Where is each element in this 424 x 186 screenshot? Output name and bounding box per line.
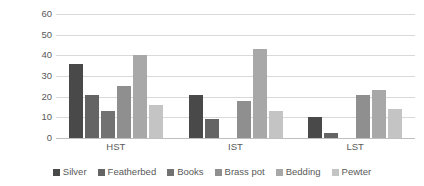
bar-chart: % of Wills Referring to Item 60504030201… [0, 0, 424, 186]
bar-featherbed-hst[interactable] [85, 95, 99, 138]
bar-slot [372, 14, 386, 138]
bar-group-ist [176, 14, 296, 138]
x-tick-label-lst: LST [295, 140, 415, 154]
bar-featherbed-ist[interactable] [205, 119, 219, 138]
legend-label-silver: Silver [63, 166, 87, 178]
bar-books-hst[interactable] [101, 111, 115, 138]
bar-pewter-hst[interactable] [149, 105, 163, 138]
bar-slot [308, 14, 322, 138]
bar-pewter-ist[interactable] [269, 111, 283, 138]
bar-group-hst [56, 14, 176, 138]
y-tick-label-60: 60 [28, 9, 52, 19]
legend-item-silver[interactable]: Silver [53, 166, 87, 178]
bar-slot [189, 14, 203, 138]
bar-slot [133, 14, 147, 138]
legend-item-brass-pot[interactable]: Brass pot [215, 166, 265, 178]
bar-slot [149, 14, 163, 138]
legend-item-books[interactable]: Books [167, 166, 203, 178]
bar-slot [69, 14, 83, 138]
y-tick-label-50: 50 [28, 30, 52, 40]
bar-pewter-lst[interactable] [388, 109, 402, 138]
bar-silver-hst[interactable] [69, 64, 83, 138]
bar-silver-lst[interactable] [308, 117, 322, 138]
legend-item-bedding[interactable]: Bedding [276, 166, 321, 178]
x-tick-label-ist: IST [176, 140, 296, 154]
x-tick-label-hst: HST [56, 140, 176, 154]
y-tick-label-20: 20 [28, 92, 52, 102]
chart-legend: SilverFeatherbedBooksBrass potBeddingPew… [0, 164, 424, 180]
bar-slot [205, 14, 219, 138]
y-axis-tick-labels: 6050403020100 [28, 14, 52, 138]
legend-swatch-pewter [332, 169, 339, 176]
bar-slot [340, 14, 354, 138]
gridline-0 [56, 138, 415, 139]
bar-brass-pot-hst[interactable] [117, 86, 131, 138]
legend-label-books: Books [177, 166, 203, 178]
legend-swatch-brass-pot [215, 169, 222, 176]
bar-slot [237, 14, 251, 138]
bar-slot [388, 14, 402, 138]
bar-slot [324, 14, 338, 138]
x-axis-category-labels: HSTISTLST [56, 140, 415, 154]
bar-featherbed-lst[interactable] [324, 133, 338, 138]
legend-label-featherbed: Featherbed [108, 166, 157, 178]
bar-bedding-lst[interactable] [372, 90, 386, 138]
bar-group-lst [295, 14, 415, 138]
legend-label-brass-pot: Brass pot [225, 166, 265, 178]
legend-swatch-books [167, 169, 174, 176]
legend-swatch-bedding [276, 169, 283, 176]
y-tick-label-0: 0 [28, 133, 52, 143]
bar-silver-ist[interactable] [189, 95, 203, 138]
legend-label-bedding: Bedding [286, 166, 321, 178]
y-tick-label-10: 10 [28, 112, 52, 122]
y-tick-label-40: 40 [28, 50, 52, 60]
bar-slot [269, 14, 283, 138]
bar-slot [85, 14, 99, 138]
legend-swatch-silver [53, 169, 60, 176]
legend-item-pewter[interactable]: Pewter [332, 166, 372, 178]
bar-slot [356, 14, 370, 138]
bar-slot [253, 14, 267, 138]
bar-slot [221, 14, 235, 138]
bar-bedding-hst[interactable] [133, 55, 147, 138]
y-tick-label-30: 30 [28, 71, 52, 81]
bar-bedding-ist[interactable] [253, 49, 267, 138]
bar-groups [56, 14, 415, 138]
bar-brass-pot-lst[interactable] [356, 95, 370, 138]
bar-slot [101, 14, 115, 138]
legend-item-featherbed[interactable]: Featherbed [98, 166, 157, 178]
legend-swatch-featherbed [98, 169, 105, 176]
plot-area [56, 14, 415, 138]
legend-label-pewter: Pewter [342, 166, 372, 178]
bar-slot [117, 14, 131, 138]
bar-brass-pot-ist[interactable] [237, 101, 251, 138]
